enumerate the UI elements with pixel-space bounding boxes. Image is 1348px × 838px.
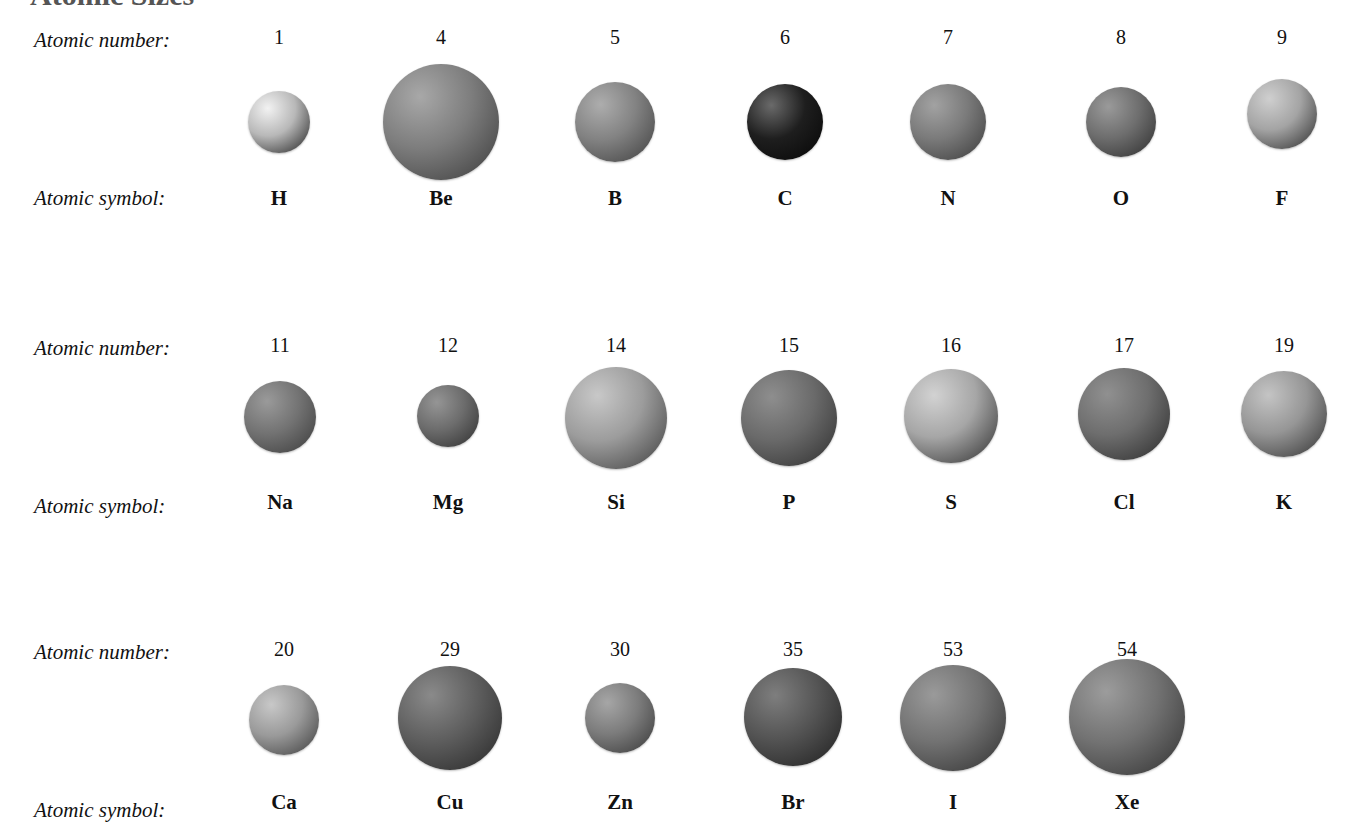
atomic-symbol-label: Atomic symbol: [34,798,165,823]
atom-sphere-mg [417,385,479,447]
atomic-symbol: Mg [433,490,463,515]
atomic-symbol: Xe [1115,790,1140,815]
atom-sphere-p [741,370,837,466]
atom-sphere-si [565,367,667,469]
atomic-symbol: B [608,186,622,211]
atomic-number-label: Atomic number: [34,336,170,361]
atomic-number-label: Atomic number: [34,28,170,53]
atom-sphere-br [744,668,842,766]
atom-sphere-h [248,91,310,153]
atomic-symbol: Cl [1114,490,1135,515]
atomic-number: 8 [1116,26,1126,49]
atomic-symbol: Na [267,490,293,515]
atom-sphere-n [910,84,986,160]
atomic-number: 53 [943,638,963,661]
atom-sphere-k [1241,371,1327,457]
atomic-symbol: O [1113,186,1129,211]
atomic-number: 12 [438,334,458,357]
atomic-number: 15 [779,334,799,357]
atomic-number: 7 [943,26,953,49]
atomic-symbol: N [940,186,955,211]
atomic-number: 19 [1274,334,1294,357]
atomic-number: 29 [440,638,460,661]
atomic-symbol: S [945,490,957,515]
atomic-number: 9 [1277,26,1287,49]
atom-sphere-cl [1078,368,1170,460]
atom-sphere-o [1086,87,1156,157]
atomic-number: 14 [606,334,626,357]
atomic-symbol: Zn [607,790,633,815]
atom-sphere-ca [249,685,319,755]
atomic-number: 35 [783,638,803,661]
atomic-number: 17 [1114,334,1134,357]
atomic-number: 20 [274,638,294,661]
atom-sphere-be [383,64,499,180]
atomic-symbol: H [271,186,287,211]
atomic-symbol-label: Atomic symbol: [34,186,165,211]
atom-sphere-f [1247,79,1317,149]
atomic-symbol: Cu [437,790,464,815]
atomic-number: 11 [270,334,289,357]
atomic-number: 6 [780,26,790,49]
atomic-symbol: Br [781,790,804,815]
atomic-symbol: Be [429,186,452,211]
diagram-title: Atomic Sizes [30,0,194,12]
atomic-symbol: F [1276,186,1289,211]
atomic-number: 5 [610,26,620,49]
atom-sphere-xe [1069,659,1185,775]
atomic-number-label: Atomic number: [34,640,170,665]
atom-sphere-zn [585,683,655,753]
atomic-symbol: Si [607,490,625,515]
atom-sphere-cu [398,666,502,770]
atomic-number: 30 [610,638,630,661]
atomic-number: 54 [1117,638,1137,661]
atomic-number: 1 [274,26,284,49]
atomic-symbol: I [949,790,957,815]
atomic-symbol: K [1276,490,1292,515]
atomic-symbol: P [783,490,796,515]
atom-sphere-s [904,369,998,463]
atomic-number: 4 [436,26,446,49]
atomic-symbol: Ca [271,790,297,815]
atom-sphere-i [900,665,1006,771]
atomic-symbol: C [777,186,792,211]
atomic-number: 16 [941,334,961,357]
atom-sphere-b [575,82,655,162]
atom-sphere-c [747,84,823,160]
atomic-symbol-label: Atomic symbol: [34,494,165,519]
atom-sphere-na [244,381,316,453]
